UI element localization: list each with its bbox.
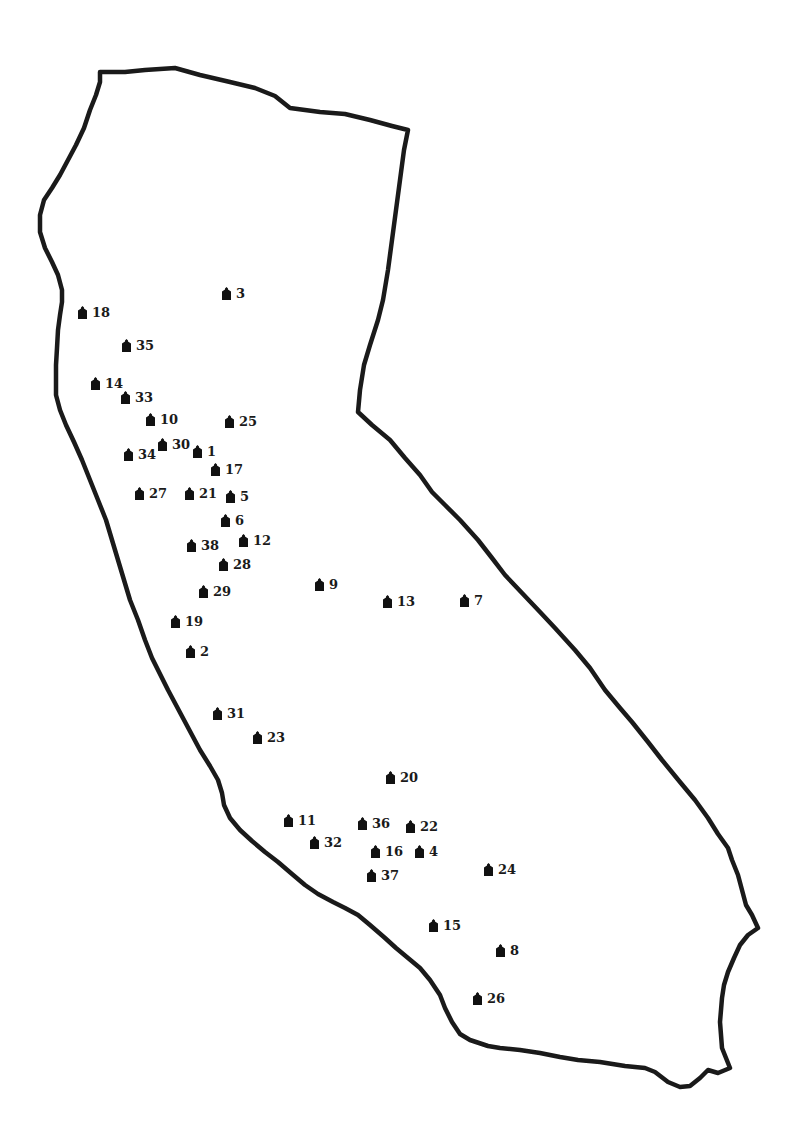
house-icon	[134, 487, 145, 500]
house-icon	[405, 820, 416, 833]
site-label: 7	[474, 594, 483, 607]
site-marker: 38	[186, 539, 219, 552]
house-icon	[428, 919, 439, 932]
site-marker: 4	[414, 845, 438, 858]
site-marker: 27	[134, 487, 167, 500]
house-icon	[309, 836, 320, 849]
house-icon	[483, 863, 494, 876]
site-marker: 20	[385, 771, 418, 784]
site-marker: 3	[221, 287, 245, 300]
site-label: 14	[105, 377, 123, 390]
house-icon	[238, 534, 249, 547]
site-label: 17	[225, 463, 243, 476]
house-icon	[185, 645, 196, 658]
site-marker: 1	[192, 445, 216, 458]
house-icon	[472, 992, 483, 1005]
site-label: 18	[92, 306, 110, 319]
site-marker: 10	[145, 413, 178, 426]
house-icon	[414, 845, 425, 858]
house-icon	[186, 539, 197, 552]
site-label: 8	[510, 944, 519, 957]
site-label: 6	[235, 514, 244, 527]
site-marker: 34	[123, 448, 156, 461]
house-icon	[218, 558, 229, 571]
site-marker: 32	[309, 836, 342, 849]
site-marker: 24	[483, 863, 516, 876]
site-marker: 26	[472, 992, 505, 1005]
site-marker: 18	[77, 306, 110, 319]
site-marker: 2	[185, 645, 209, 658]
house-icon	[283, 814, 294, 827]
site-marker: 13	[382, 595, 415, 608]
site-marker: 22	[405, 820, 438, 833]
site-label: 31	[227, 707, 245, 720]
site-label: 10	[160, 413, 178, 426]
site-marker: 17	[210, 463, 243, 476]
site-label: 19	[185, 615, 203, 628]
site-label: 4	[429, 845, 438, 858]
site-label: 15	[443, 919, 461, 932]
site-marker: 33	[120, 391, 153, 404]
site-label: 28	[233, 558, 251, 571]
site-label: 32	[324, 836, 342, 849]
site-label: 11	[298, 814, 316, 827]
site-label: 29	[213, 585, 231, 598]
site-label: 25	[239, 415, 257, 428]
site-label: 13	[397, 595, 415, 608]
house-icon	[314, 578, 325, 591]
map-canvas: 1234567891011121314151617181920212223242…	[0, 0, 801, 1146]
site-marker: 7	[459, 594, 483, 607]
house-icon	[157, 438, 168, 451]
site-label: 2	[200, 645, 209, 658]
house-icon	[210, 463, 221, 476]
house-icon	[382, 595, 393, 608]
house-icon	[357, 817, 368, 830]
site-marker: 25	[224, 415, 257, 428]
site-marker: 8	[495, 944, 519, 957]
site-label: 24	[498, 863, 516, 876]
house-icon	[495, 944, 506, 957]
site-label: 30	[172, 438, 190, 451]
site-marker: 16	[370, 845, 403, 858]
house-icon	[220, 514, 231, 527]
house-icon	[385, 771, 396, 784]
site-marker: 12	[238, 534, 271, 547]
house-icon	[224, 415, 235, 428]
site-marker: 30	[157, 438, 190, 451]
site-label: 27	[149, 487, 167, 500]
site-label: 37	[381, 869, 399, 882]
house-icon	[370, 845, 381, 858]
house-icon	[77, 306, 88, 319]
house-icon	[252, 731, 263, 744]
site-marker: 36	[357, 817, 390, 830]
house-icon	[121, 339, 132, 352]
site-marker: 5	[225, 490, 249, 503]
site-label: 36	[372, 817, 390, 830]
house-icon	[192, 445, 203, 458]
site-marker: 28	[218, 558, 251, 571]
site-label: 12	[253, 534, 271, 547]
site-marker: 19	[170, 615, 203, 628]
house-icon	[459, 594, 470, 607]
site-label: 33	[135, 391, 153, 404]
site-marker: 6	[220, 514, 244, 527]
site-label: 5	[240, 490, 249, 503]
house-icon	[123, 448, 134, 461]
site-label: 1	[207, 445, 216, 458]
house-icon	[145, 413, 156, 426]
site-label: 38	[201, 539, 219, 552]
site-marker: 9	[314, 578, 338, 591]
house-icon	[120, 391, 131, 404]
house-icon	[212, 707, 223, 720]
site-label: 21	[199, 487, 217, 500]
site-label: 3	[236, 287, 245, 300]
house-icon	[170, 615, 181, 628]
site-label: 16	[385, 845, 403, 858]
site-label: 34	[138, 448, 156, 461]
site-marker: 23	[252, 731, 285, 744]
site-label: 35	[136, 339, 154, 352]
house-icon	[366, 869, 377, 882]
site-marker: 29	[198, 585, 231, 598]
site-marker: 31	[212, 707, 245, 720]
site-label: 9	[329, 578, 338, 591]
